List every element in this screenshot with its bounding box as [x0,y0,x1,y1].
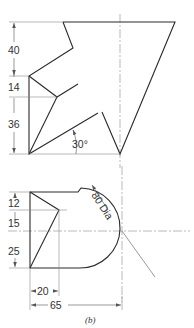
figure-caption: (b) [85,315,96,325]
dim-label-12: 12 [8,197,20,209]
lower-triangle [30,192,59,268]
upper-view: 40 14 36 30° [8,14,175,168]
dim-label-20: 20 [37,285,49,297]
lower-view: 12 15 25 20 65 80 Dia (b) [8,166,190,325]
angle-label: 30° [72,138,88,150]
dim-label-14: 14 [8,81,20,93]
dia-line [122,231,155,277]
dim-label-36: 36 [8,118,20,130]
upper-right-outline [63,22,175,154]
upper-fold-line-top [29,76,78,97]
technical-drawing: 40 14 36 30° 12 15 25 20 [0,0,194,328]
dim-label-15: 15 [8,217,20,229]
dim-label-25: 25 [8,245,20,257]
angle-arrow [73,130,75,135]
dim-label-65: 65 [50,299,62,311]
dia-label: 80 Dia [89,190,116,222]
upper-left-outline [29,22,98,154]
dim-label-40: 40 [8,44,20,56]
